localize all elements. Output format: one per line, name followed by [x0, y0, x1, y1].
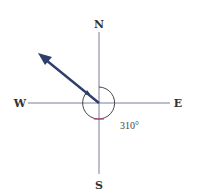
east-label: E: [174, 97, 182, 110]
compass-diagram: N S W E 310°: [0, 0, 199, 195]
west-label: W: [13, 97, 27, 110]
bearing-arrow: [46, 60, 99, 103]
south-label: S: [95, 179, 103, 192]
north-label: N: [94, 18, 104, 31]
angle-label: 310°: [120, 120, 139, 131]
